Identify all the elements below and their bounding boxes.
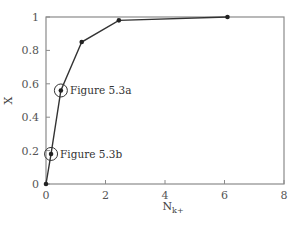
data-point: [117, 18, 122, 23]
annotation-label: Figure 5.3b: [60, 148, 122, 160]
data-point: [49, 152, 54, 157]
data-point: [79, 40, 84, 45]
data-point: [44, 182, 49, 187]
x-tick-label: 6: [221, 189, 228, 202]
x-tick-label: 0: [43, 189, 50, 202]
data-point: [225, 15, 230, 20]
annotation-label: Figure 5.3a: [70, 84, 132, 96]
y-tick-label: 0.6: [22, 78, 40, 91]
y-tick-label: 0.4: [22, 111, 40, 124]
chart: 0246800.20.40.60.81Nk+XFigure 5.3aFigure…: [0, 0, 299, 225]
data-point: [59, 88, 64, 93]
y-tick-label: 0.2: [22, 145, 40, 158]
x-axis-label-subscript: k+: [172, 206, 184, 215]
y-axis-label: X: [2, 96, 15, 104]
y-tick-label: 1: [32, 11, 39, 24]
x-axis-label: Nk+: [162, 200, 183, 215]
x-tick-label: 2: [102, 189, 109, 202]
y-tick-label: 0.8: [22, 44, 40, 57]
y-tick-label: 0: [32, 178, 39, 191]
x-tick-label: 8: [281, 189, 288, 202]
